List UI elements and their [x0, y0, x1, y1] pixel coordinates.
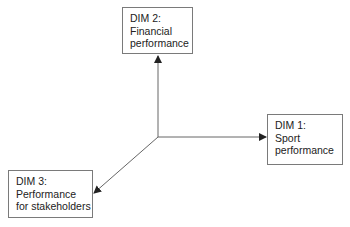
dimension-box-performance-for-stakeholders: DIM 3: Performance for stakeholders [8, 170, 93, 218]
dimension-label: DIM 2: [130, 12, 187, 25]
three-dimension-performance-diagram: DIM 2: Financial performance DIM 1: Spor… [0, 0, 350, 227]
axis-arrow-dim3 [94, 137, 158, 193]
dimension-label: DIM 3: [16, 175, 87, 188]
dimension-text-line: Performance [16, 188, 87, 201]
dimension-text-line: performance [275, 144, 337, 157]
dimension-text-line: for stakeholders [16, 200, 87, 213]
dimension-box-financial-performance: DIM 2: Financial performance [122, 7, 193, 54]
dimension-label: DIM 1: [275, 119, 337, 132]
dimension-text-line: Sport [275, 132, 337, 145]
dimension-text-line: performance [130, 37, 187, 50]
dimension-box-sport-performance: DIM 1: Sport performance [267, 114, 343, 165]
dimension-text-line: Financial [130, 25, 187, 38]
